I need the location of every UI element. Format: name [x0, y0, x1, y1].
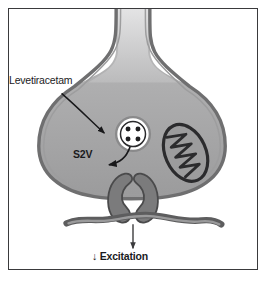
- figure-frame: [8, 8, 258, 270]
- label-excitation: ↓ Excitation: [92, 250, 148, 262]
- vesicle-protein-dot: [126, 127, 131, 132]
- vesicle-protein-dot: [135, 137, 140, 142]
- figure-root: Levetiracetam S2V ↓ Excitation: [0, 0, 268, 282]
- vesicle-protein-dot: [135, 127, 140, 132]
- synaptic-vesicle: [116, 117, 150, 151]
- neuron-synapse-diagram: [9, 9, 257, 269]
- label-s2v: S2V: [73, 148, 92, 160]
- vesicle-protein-dot: [126, 137, 131, 142]
- axon-neck-shading: [88, 9, 177, 82]
- synaptic-vesicle-inner-ring: [121, 122, 146, 147]
- label-levetiracetam: Levetiracetam: [9, 74, 72, 86]
